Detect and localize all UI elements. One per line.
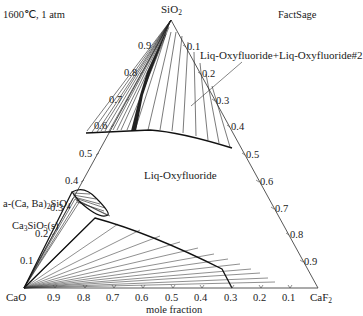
vertex-sio2: SiO2 bbox=[161, 4, 182, 17]
alpha-silicate-text: a-(Ca, Ba) bbox=[3, 198, 47, 209]
miscibility-gap-tie-lines bbox=[87, 20, 230, 147]
vertex-cao: CaO bbox=[6, 292, 26, 303]
bottom-tick-2: 0.8 bbox=[77, 293, 90, 304]
c3s-tail: (s) bbox=[48, 220, 59, 231]
vertex-caf2-formula: CaF bbox=[310, 291, 328, 303]
software-label: FactSage bbox=[278, 10, 317, 21]
c3s-mid: SiO bbox=[27, 220, 43, 231]
right-tick-4: 0.4 bbox=[231, 122, 244, 133]
bottom-tick-8: 0.2 bbox=[253, 293, 266, 304]
bottom-tick-1: 0.9 bbox=[47, 293, 60, 304]
bottom-tick-9: 0.1 bbox=[282, 293, 295, 304]
right-tick-1: 0.1 bbox=[187, 42, 200, 53]
liquid-region-label: Liq-Oxyfluoride bbox=[144, 170, 217, 181]
left-tick-9: 0.9 bbox=[138, 41, 151, 52]
left-tick-1: 0.1 bbox=[20, 256, 33, 267]
vertex-caf2: CaF2 bbox=[310, 292, 332, 305]
bottom-tick-6: 0.4 bbox=[194, 293, 207, 304]
vertex-sio2-formula: SiO bbox=[161, 3, 178, 15]
tick-marks bbox=[37, 45, 303, 288]
x-axis-label: mole fraction bbox=[146, 305, 202, 316]
bottom-tick-3: 0.7 bbox=[106, 293, 119, 304]
vertex-sio2-sub: 2 bbox=[178, 8, 182, 17]
cao-liquid-tie-lines bbox=[24, 218, 275, 288]
right-tick-9: 0.9 bbox=[304, 257, 317, 268]
vertex-caf2-sub: 2 bbox=[328, 296, 332, 305]
right-tick-8: 0.8 bbox=[290, 230, 303, 241]
alpha-silicate-sub2: 4 bbox=[67, 202, 71, 211]
bottom-tick-4: 0.6 bbox=[135, 293, 148, 304]
conditions-label: 1600℃, 1 atm bbox=[3, 10, 65, 21]
c3s-text: Ca bbox=[12, 220, 24, 231]
right-tick-5: 0.5 bbox=[246, 150, 259, 161]
bottom-tick-5: 0.5 bbox=[165, 293, 178, 304]
left-tick-4: 0.4 bbox=[65, 176, 78, 187]
left-tick-7: 0.7 bbox=[109, 95, 122, 106]
alpha-silicate-label: a-(Ca, Ba)2SiO4 bbox=[3, 199, 71, 211]
right-tick-3: 0.3 bbox=[216, 96, 229, 107]
miscibility-boundary bbox=[86, 130, 232, 148]
right-tick-6: 0.6 bbox=[260, 177, 273, 188]
left-tick-5: 0.5 bbox=[79, 149, 92, 160]
right-tick-7: 0.7 bbox=[275, 204, 288, 215]
tricalcium-silicate-label: Ca3SiO5(s) bbox=[12, 221, 59, 233]
bottom-tick-7: 0.3 bbox=[224, 293, 237, 304]
right-tick-2: 0.2 bbox=[202, 69, 215, 80]
two-liquid-region-label: Liq-Oxyfluoride+Liq-Oxyfluoride#2 bbox=[200, 50, 363, 61]
alpha-silicate-tail: SiO bbox=[50, 198, 66, 209]
left-tick-6: 0.6 bbox=[94, 121, 107, 132]
left-tick-8: 0.8 bbox=[124, 68, 137, 79]
